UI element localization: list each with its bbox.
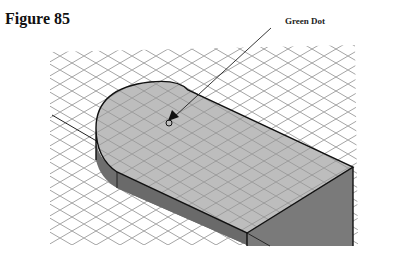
isometric-diagram (0, 0, 396, 260)
